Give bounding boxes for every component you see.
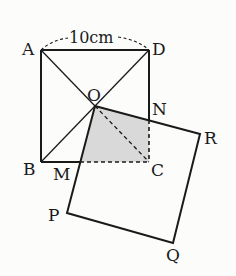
- label-p: P: [48, 205, 59, 225]
- label-m: M: [53, 164, 70, 184]
- label-b: B: [23, 159, 36, 179]
- dimension-label: 10cm: [69, 28, 114, 47]
- dimension-arc-right: [118, 37, 149, 50]
- label-o: O: [87, 85, 101, 105]
- label-d: D: [152, 39, 166, 59]
- label-a: A: [21, 39, 35, 59]
- diagonal-do: [95, 50, 149, 106]
- shaded-region-onmc: [80, 106, 149, 162]
- dimension-arc-left: [41, 38, 68, 50]
- label-n: N: [152, 99, 167, 119]
- label-r: R: [204, 128, 218, 148]
- label-q: Q: [166, 245, 180, 265]
- geometry-diagram: 10cm A D O N R B M C P Q: [0, 0, 236, 276]
- label-c: C: [151, 160, 164, 180]
